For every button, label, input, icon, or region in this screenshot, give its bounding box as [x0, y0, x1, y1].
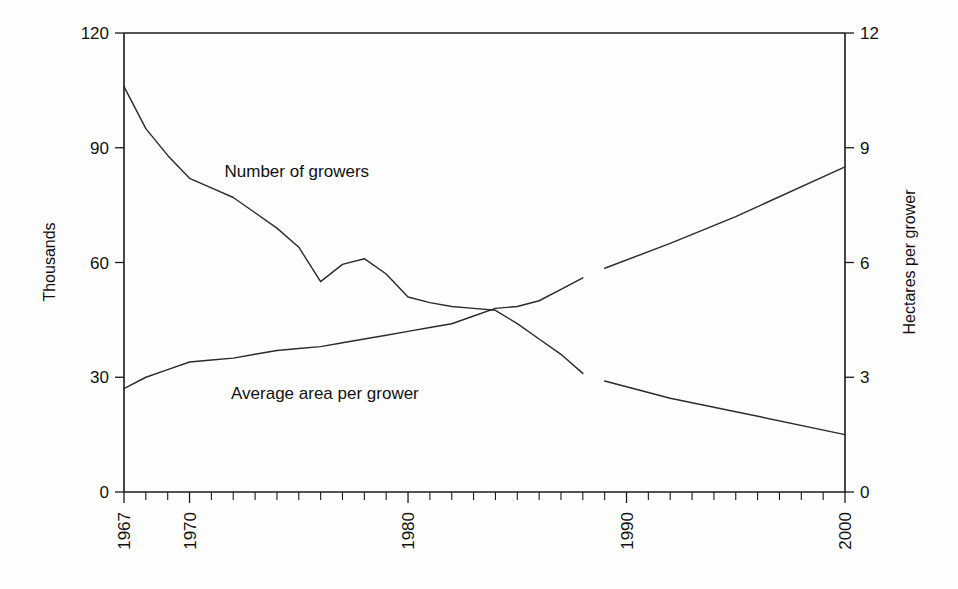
- line-chart: 0306090120 036912 19671970198019902000 N…: [0, 0, 958, 589]
- x-tick-label: 2000: [836, 512, 855, 550]
- x-tick-label: 1967: [115, 512, 134, 550]
- x-tick-label: 1970: [181, 512, 200, 550]
- series-annotations: Number of growersAverage area per grower: [225, 162, 420, 403]
- series-annotation: Number of growers: [225, 162, 370, 181]
- left-tick-label: 0: [100, 483, 109, 502]
- series-annotation: Average area per grower: [231, 384, 419, 403]
- right-axis-title: Hectares per grower: [901, 189, 918, 335]
- right-tick-label: 12: [860, 24, 879, 43]
- data-series-group: [124, 87, 845, 435]
- right-axis-ticks: [845, 33, 854, 492]
- series-path: [605, 381, 845, 435]
- plot-frame: [124, 33, 845, 492]
- right-axis-tick-labels: 036912: [860, 24, 879, 502]
- left-axis-title: Thousands: [41, 222, 58, 301]
- left-tick-label: 30: [90, 368, 109, 387]
- left-tick-label: 120: [81, 24, 109, 43]
- chart-page: 0306090120 036912 19671970198019902000 N…: [0, 0, 958, 589]
- right-tick-label: 0: [860, 483, 869, 502]
- series-path: [605, 167, 845, 268]
- x-tick-label: 1990: [618, 512, 637, 550]
- left-tick-label: 90: [90, 139, 109, 158]
- left-axis-tick-labels: 0306090120: [81, 24, 109, 502]
- x-axis-ticks: [124, 492, 845, 503]
- right-tick-label: 9: [860, 139, 869, 158]
- right-tick-label: 3: [860, 368, 869, 387]
- right-tick-label: 6: [860, 254, 869, 273]
- left-axis-ticks: [115, 33, 124, 492]
- series-path: [124, 278, 583, 389]
- x-axis-tick-labels: 19671970198019902000: [115, 512, 855, 550]
- left-tick-label: 60: [90, 254, 109, 273]
- series-path: [124, 87, 583, 374]
- x-tick-label: 1980: [399, 512, 418, 550]
